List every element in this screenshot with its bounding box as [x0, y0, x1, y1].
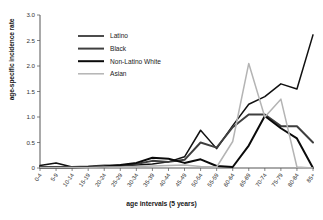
y-tick-label: 3.0: [26, 11, 35, 18]
y-tick-label: 0: [32, 164, 36, 171]
legend-label: Non-Latino White: [110, 58, 161, 65]
y-tick-label: 2.0: [26, 62, 35, 69]
x-tick-label: 60-64: [222, 171, 236, 187]
y-tick-label: 2.5: [26, 37, 35, 44]
y-tick-label: 1.0: [26, 113, 35, 120]
y-axis-ticks: 00.51.01.52.02.53.0: [26, 11, 40, 171]
x-tick-label: 35-39: [142, 172, 155, 188]
chart-figure: age-specific incidence rate age interval…: [0, 0, 323, 220]
x-tick-label: 55-59: [206, 172, 219, 188]
x-tick-label: 75-79: [270, 172, 283, 188]
x-tick-label: 25-29: [110, 172, 123, 188]
x-tick-label: 65-69: [238, 172, 251, 188]
data-series-group: [40, 35, 313, 168]
y-axis-title: age-specific incidence rate: [8, 0, 15, 125]
x-tick-label: 85+: [305, 172, 316, 184]
legend-label: Latino: [110, 32, 128, 39]
x-tick-label: 5-9: [49, 172, 59, 182]
chart-legend: LatinoBlackNon-Latino WhiteAsian: [78, 32, 161, 77]
x-tick-label: 80-84: [287, 171, 301, 187]
x-tick-label: 70-74: [254, 171, 268, 187]
x-tick-label: 10-14: [62, 171, 76, 187]
x-tick-label: 15-19: [78, 172, 91, 188]
y-tick-label: 1.5: [26, 88, 35, 95]
legend-label: Black: [110, 45, 127, 52]
x-axis-title: age intervals (5 years): [0, 200, 323, 207]
x-tick-label: 45-49: [174, 172, 187, 188]
x-tick-label: 50-54: [190, 171, 204, 187]
y-tick-label: 0.5: [26, 139, 35, 146]
x-tick-label: 0-4: [33, 172, 43, 183]
x-axis-ticks: 0-45-910-1415-1920-2425-2930-3435-3940-4…: [33, 168, 316, 188]
line-chart-plot: 00.51.01.52.02.53.0 0-45-910-1415-1920-2…: [0, 0, 323, 220]
x-tick-label: 20-24: [94, 171, 108, 187]
series-line-latino: [40, 35, 313, 167]
x-tick-label: 30-34: [126, 171, 140, 187]
x-tick-label: 40-44: [158, 171, 172, 187]
legend-label: Asian: [110, 70, 127, 77]
series-line-non-latino-white: [40, 116, 313, 168]
series-line-asian: [40, 63, 313, 168]
